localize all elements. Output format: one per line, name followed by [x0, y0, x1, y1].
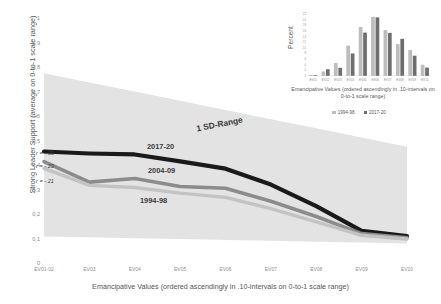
- inset-bar: [421, 65, 425, 76]
- inset-legend-item: 1994-98: [332, 110, 354, 115]
- inset-bar: [338, 68, 342, 76]
- inset-y-tick-label: 10: [303, 46, 306, 50]
- inset-bar: [322, 71, 326, 76]
- inset-bar: [363, 33, 367, 76]
- inset-bar-chart: Percent 2220181614121086420 EV01EV02EV03…: [283, 12, 435, 124]
- inset-bar: [359, 27, 363, 76]
- series-label-2017-20: 2017-20: [147, 142, 174, 151]
- inset-y-axis-title: Percent: [287, 15, 294, 61]
- inset-x-tick-label: EV06: [371, 78, 379, 82]
- inset-bar: [346, 46, 350, 76]
- inset-x-tick-label: EV02: [322, 78, 330, 82]
- inset-bar: [425, 68, 429, 76]
- inset-bar: [408, 50, 412, 76]
- inset-bar: [371, 17, 375, 76]
- x-axis-title: Emancipative Values (ordered ascendingly…: [0, 282, 441, 291]
- inset-y-tick-label: 2: [304, 68, 306, 72]
- inset-plot-area: [307, 14, 431, 76]
- inset-y-tick-label: 12: [303, 40, 306, 44]
- inset-bar: [400, 39, 404, 76]
- inset-x-tick-label: EV07: [384, 78, 392, 82]
- inset-bar: [384, 30, 388, 76]
- correlation-label-1994-98: r = -.21: [36, 178, 54, 184]
- inset-y-tick-label: 18: [303, 23, 306, 27]
- inset-bar: [388, 33, 392, 76]
- inset-x-tick-label: EV05: [359, 78, 367, 82]
- series-label-2004-09: 2004-09: [148, 166, 175, 175]
- correlation-label-2017-20: r = -.33: [36, 150, 54, 156]
- inset-bar: [413, 56, 417, 76]
- inset-bar: [351, 53, 355, 76]
- x-tick-label: EV05: [174, 266, 186, 272]
- inset-legend-swatch: [364, 111, 367, 114]
- inset-legend-label: 1994-98: [338, 110, 355, 115]
- inset-x-tick-label: EV10: [421, 78, 429, 82]
- x-tick-label: EV06: [219, 266, 231, 272]
- x-tick-label: EV03: [83, 266, 95, 272]
- inset-y-tick-label: 14: [303, 35, 306, 39]
- inset-y-tick-labels: 2220181614121086420: [294, 14, 306, 76]
- inset-y-tick-label: 4: [304, 63, 306, 67]
- x-tick-label: EV01-02: [34, 266, 53, 272]
- inset-y-tick-label: 6: [304, 57, 306, 61]
- inset-x-tick-label: EV01: [309, 78, 317, 82]
- inset-y-tick-label: 16: [303, 29, 306, 33]
- x-tick-label: EV09: [356, 266, 368, 272]
- y-tick-label: 0,1: [14, 236, 40, 242]
- inset-plot-svg: [307, 14, 431, 76]
- inset-x-tick-label: EV04: [347, 78, 355, 82]
- inset-y-tick-label: 8: [304, 51, 306, 55]
- x-tick-label: EV10: [401, 266, 413, 272]
- y-tick-label: 0,2: [14, 211, 40, 217]
- inset-y-tick-label: 20: [303, 18, 306, 22]
- y-tick-label: 0,8: [14, 64, 40, 70]
- inset-bar: [334, 63, 338, 76]
- inset-legend-swatch: [332, 111, 335, 114]
- inset-x-tick-label: EV08: [396, 78, 404, 82]
- y-tick-label: 1: [14, 15, 40, 21]
- inset-x-tick-label: EV03: [334, 78, 342, 82]
- y-tick-label: 0,5: [14, 138, 40, 144]
- y-tick-label: 0,3: [14, 187, 40, 193]
- inset-x-tick-label: EV09: [409, 78, 417, 82]
- inset-bar: [326, 69, 330, 76]
- correlation-label-2004-09: r = -.23: [36, 163, 54, 169]
- inset-bar: [396, 44, 400, 76]
- inset-bar: [376, 17, 380, 76]
- x-tick-label: EV04: [129, 266, 141, 272]
- inset-legend-item: 2017-20: [364, 110, 386, 115]
- x-tick-label: EV07: [265, 266, 277, 272]
- y-tick-label: 0,9: [14, 40, 40, 46]
- series-label-1994-98: 1994-98: [140, 196, 167, 205]
- inset-y-tick-label: 22: [303, 12, 306, 16]
- inset-legend: 1994-982017-20: [283, 110, 435, 115]
- figure-root: Strong Leader Support (average on 0-to-1…: [0, 0, 441, 304]
- inset-x-axis-title: Emancipative Values (ordered ascendingly…: [291, 86, 435, 100]
- y-tick-label: 0,6: [14, 113, 40, 119]
- inset-legend-label: 2017-20: [369, 110, 386, 115]
- y-tick-label: 0,7: [14, 89, 40, 95]
- x-tick-label: EV08: [310, 266, 322, 272]
- inset-y-tick-label: 0: [304, 74, 306, 78]
